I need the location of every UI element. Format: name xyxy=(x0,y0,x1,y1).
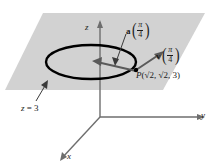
point-P-label: P(√2, √2, 3) xyxy=(136,71,180,80)
x-axis-label: x xyxy=(67,152,71,161)
z-axis-label: z xyxy=(85,23,89,32)
right-paren: ) xyxy=(175,47,180,63)
plane-label-value: 3 xyxy=(34,103,39,113)
velocity-vector-label: v(π4) xyxy=(156,46,180,64)
diagram-svg xyxy=(0,0,214,168)
point-close-paren: ) xyxy=(177,70,180,80)
plane-equation-label: z = 3 xyxy=(21,104,39,113)
acceleration-arg-group: (π4) xyxy=(131,21,151,39)
fraction-numerator: π xyxy=(167,46,173,55)
plane-label-variable: z xyxy=(21,103,25,113)
y-axis-label: y xyxy=(201,111,205,120)
right-paren: ) xyxy=(145,22,150,38)
figure-canvas: a(π4) v(π4) P(√2, √2, 3) z = 3 z y x xyxy=(0,0,214,168)
pi-over-four-fraction: π4 xyxy=(137,21,144,39)
fraction-denominator: 4 xyxy=(137,31,143,40)
acceleration-vector-label: a(π4) xyxy=(126,21,150,39)
left-paren: ( xyxy=(131,22,136,38)
fraction-denominator: 4 xyxy=(167,56,173,65)
velocity-arg-group: (π4) xyxy=(161,46,181,64)
plane-label-equals: = xyxy=(27,103,32,113)
pi-over-four-fraction: π4 xyxy=(167,46,174,64)
fraction-numerator: π xyxy=(137,21,143,30)
left-paren: ( xyxy=(161,47,166,63)
